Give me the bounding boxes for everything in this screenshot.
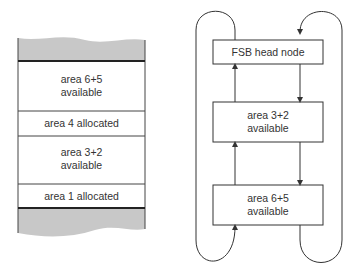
bottom-shaded-region bbox=[18, 208, 145, 236]
node-label: area 3+2 available bbox=[213, 109, 323, 135]
node-label: FSB head node bbox=[213, 46, 323, 59]
block-label: area 3+2 available bbox=[18, 146, 145, 172]
block-label: area 1 allocated bbox=[18, 190, 145, 203]
block-label: area 4 allocated bbox=[18, 117, 145, 130]
top-shaded-region bbox=[18, 37, 145, 61]
diagram-canvas bbox=[0, 0, 356, 275]
block-label: area 6+5 available bbox=[18, 73, 145, 99]
node-label: area 6+5 available bbox=[213, 192, 323, 218]
memory-map bbox=[18, 37, 145, 236]
